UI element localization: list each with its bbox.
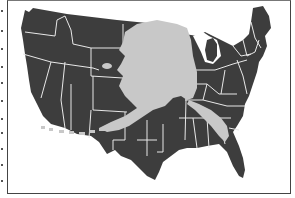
great-salt-lake [102, 63, 112, 69]
map-canvas [7, 0, 291, 194]
scan-margin-marks [0, 0, 5, 198]
michigan-shape [205, 38, 217, 62]
